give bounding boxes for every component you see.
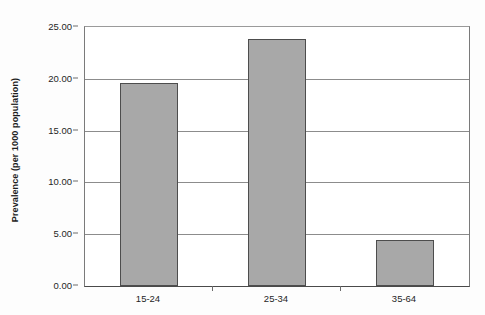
y-axis-tick-label: 5.00 bbox=[54, 228, 73, 239]
x-axis-tick-label: 35-64 bbox=[392, 293, 416, 304]
y-axis-tick-labels: 0.005.0010.0015.0020.0025.00 bbox=[26, 26, 78, 285]
x-axis-tick-mark bbox=[340, 286, 341, 291]
x-axis: 15-2425-3435-64 bbox=[84, 286, 470, 314]
y-axis-tick-label: 25.00 bbox=[48, 21, 72, 32]
y-axis-tick-label: 10.00 bbox=[48, 176, 72, 187]
plot-area bbox=[84, 26, 470, 287]
bar bbox=[120, 83, 178, 286]
y-axis-tick-mark bbox=[73, 233, 78, 234]
y-axis-tick-mark bbox=[73, 26, 78, 27]
x-axis-tick-label: 15-24 bbox=[136, 293, 160, 304]
y-axis-tick-label: 20.00 bbox=[48, 72, 72, 83]
bar bbox=[376, 240, 434, 286]
y-axis-title-text: Prevalence (per 1000 population) bbox=[10, 78, 20, 222]
bar-series bbox=[85, 27, 469, 286]
chart-screenshot: Prevalence (per 1000 population) 0.005.0… bbox=[0, 0, 485, 315]
y-axis-tick-mark bbox=[73, 77, 78, 78]
x-axis-tick-label: 25-34 bbox=[264, 293, 288, 304]
bar bbox=[248, 39, 306, 286]
y-axis-tick-label: 15.00 bbox=[48, 124, 72, 135]
y-axis-tick-mark bbox=[73, 181, 78, 182]
y-axis-tick-label: 0.00 bbox=[54, 280, 73, 291]
x-axis-tick-mark bbox=[212, 286, 213, 291]
y-axis-tick-mark bbox=[73, 129, 78, 130]
y-axis-tick-mark bbox=[73, 285, 78, 286]
